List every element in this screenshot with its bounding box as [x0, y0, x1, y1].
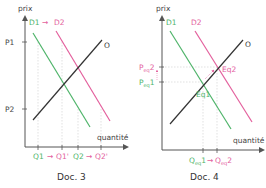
- diagram-canvas: P1 P2 prix D1 → D2 O quantité Q1 → Q1' Q…: [0, 0, 266, 188]
- doc3-qtick-q1: Q1: [33, 152, 44, 161]
- doc3-y-axis-label: prix: [18, 4, 33, 13]
- doc4-caption: Doc. 4: [190, 172, 219, 182]
- doc4-demand-d2-curve: [195, 31, 252, 122]
- doc3-qtick-arrow2: →: [86, 152, 92, 161]
- doc4-eq1-label: Eq1: [196, 90, 210, 99]
- doc3-x-axis-label: quantité: [97, 133, 129, 142]
- doc4-qtick-qeq1: Qeq1: [189, 156, 206, 167]
- doc3-demand-d1-curve: [33, 33, 90, 127]
- doc3-qtick-arrow1: →: [47, 152, 53, 161]
- doc3-qtick-q1prime: Q1': [56, 152, 69, 161]
- doc3-demand-d2-curve: [56, 31, 110, 121]
- doc3-price-tick-p1: P1: [5, 38, 15, 47]
- doc4-qtick-arrow: →: [207, 156, 213, 165]
- doc3-legend-d1: D1: [29, 18, 40, 27]
- doc3-diagram: P1 P2 prix D1 → D2 O quantité Q1 → Q1' Q…: [5, 4, 129, 182]
- doc4-x-axis-label: quantité: [233, 136, 265, 145]
- doc4-y-axis-label: prix: [156, 4, 171, 13]
- doc4-supply-label: O: [245, 40, 251, 49]
- doc4-price-tick-peq2: Peq2: [139, 63, 155, 74]
- doc3-price-tick-p2: P2: [5, 105, 15, 114]
- doc4-qtick-qeq2: Qeq2: [215, 156, 232, 167]
- doc3-supply-label: O: [104, 41, 110, 50]
- doc3-legend-arrow: →: [42, 18, 48, 27]
- doc4-d1-label: D1: [166, 18, 177, 27]
- doc3-caption: Doc. 3: [57, 172, 86, 182]
- doc4-d2-label: D2: [191, 18, 202, 27]
- doc3-supply-curve: [33, 40, 102, 120]
- doc3-qtick-q2prime: Q2': [95, 152, 108, 161]
- doc4-eq2-label: Eq2: [222, 65, 236, 74]
- doc3-legend-d2: D2: [54, 18, 65, 27]
- doc3-qtick-q2: Q2: [73, 152, 84, 161]
- doc4-diagram: Peq2 Peq1 prix D1 D2 O Eq2 Eq1 quantité …: [139, 4, 265, 182]
- doc4-price-tick-peq1: Peq1: [139, 78, 155, 89]
